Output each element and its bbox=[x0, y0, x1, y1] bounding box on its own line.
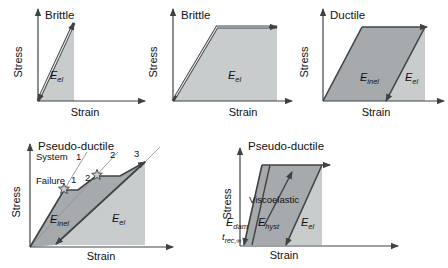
y-axis-label: Stress bbox=[12, 46, 24, 78]
panel-pseudo-ductile-viscoelastic: Pseudo-ductile Stress Strain Viscoelasti… bbox=[221, 140, 398, 261]
panel-brittle-1: Brittle Stress Strain Eel bbox=[12, 9, 145, 118]
failure-1-number: 1 bbox=[71, 174, 76, 185]
panel-title: Pseudo-ductile bbox=[248, 140, 324, 152]
y-axis-label: Stress bbox=[298, 46, 310, 78]
stress-strain-figure: Brittle Stress Strain Eel Brittle Stress… bbox=[0, 0, 448, 268]
damage-energy-label: Edam bbox=[226, 216, 248, 231]
system-1-number: 1 bbox=[76, 151, 81, 162]
y-axis-label: Stress bbox=[147, 46, 159, 78]
system-2-number: 2 bbox=[110, 149, 115, 160]
system-label: System bbox=[36, 151, 68, 162]
panel-brittle-2: Brittle Stress Strain Eel bbox=[147, 9, 292, 118]
panel-ductile: Ductile Stress Strain Einel Eel bbox=[298, 9, 444, 118]
failure-label: Failure bbox=[36, 175, 65, 186]
viscoelastic-label: Viscoelastic bbox=[249, 194, 299, 205]
y-axis-label: Stress bbox=[10, 186, 22, 218]
elastic-energy-region bbox=[173, 27, 277, 101]
y-axis-label: Stress bbox=[221, 188, 233, 220]
panel-title: Brittle bbox=[181, 9, 210, 21]
panel-title: Brittle bbox=[45, 9, 74, 21]
failure-2-number: 2 bbox=[85, 172, 90, 183]
x-axis-label: Strain bbox=[229, 106, 258, 118]
x-axis-label: Strain bbox=[362, 106, 391, 118]
panel-title: Ductile bbox=[330, 9, 365, 21]
x-axis-label: Strain bbox=[87, 250, 116, 262]
system-3-number: 3 bbox=[134, 148, 139, 159]
recovery-time-label: trec,∞ bbox=[222, 231, 241, 244]
x-axis-label: Strain bbox=[71, 106, 100, 118]
system-3-line bbox=[145, 147, 160, 162]
figure-canvas: Brittle Stress Strain Eel Brittle Stress… bbox=[0, 0, 448, 268]
panel-pseudo-ductile-systems: Pseudo-ductile System 1 2 3 Failure 1 2 … bbox=[10, 140, 173, 262]
x-axis-label: Strain bbox=[270, 249, 299, 261]
